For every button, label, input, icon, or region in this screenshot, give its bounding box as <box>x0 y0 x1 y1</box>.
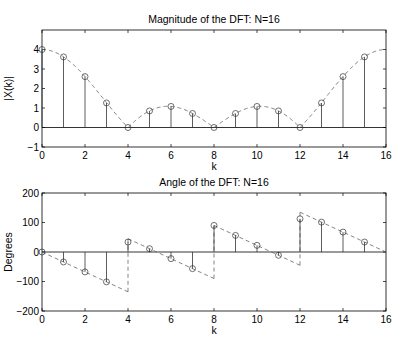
x-tick-label: 12 <box>294 150 306 161</box>
chart-title: Angle of the DFT: N=16 <box>159 176 269 188</box>
y-tick-label: 3 <box>33 64 39 75</box>
y-tick-label: 100 <box>22 217 39 228</box>
y-tick-label: −200 <box>16 306 39 317</box>
x-tick-label: 10 <box>251 314 263 325</box>
dtft-magnitude-curve <box>42 50 386 128</box>
y-axis-label: Degrees <box>2 232 14 272</box>
x-tick-label: 6 <box>168 150 174 161</box>
x-tick-label: 12 <box>294 314 306 325</box>
subplot-angle: 0246810121416−200−1000100200Angle of the… <box>2 176 392 336</box>
dtft-phase-segment <box>214 225 300 265</box>
x-tick-label: 0 <box>39 314 45 325</box>
x-tick-label: 2 <box>82 150 88 161</box>
x-tick-label: 10 <box>251 150 263 161</box>
x-tick-label: 4 <box>125 150 131 161</box>
x-tick-label: 4 <box>125 314 131 325</box>
x-axis-label: k <box>211 324 217 336</box>
x-tick-label: 14 <box>337 150 349 161</box>
subplot-magnitude: 0246810121416−101234Magnitude of the DFT… <box>2 13 392 172</box>
axes-frame <box>42 30 386 147</box>
y-tick-label: 200 <box>22 188 39 199</box>
y-tick-label: 2 <box>33 83 39 94</box>
x-tick-label: 16 <box>380 150 392 161</box>
y-tick-label: 0 <box>33 122 39 133</box>
y-tick-label: 1 <box>33 103 39 114</box>
x-tick-label: 2 <box>82 314 88 325</box>
y-axis-label: |X(k)| <box>2 76 14 101</box>
x-tick-label: 0 <box>39 150 45 161</box>
x-tick-label: 16 <box>380 314 392 325</box>
y-tick-label: 0 <box>33 247 39 258</box>
x-tick-label: 6 <box>168 314 174 325</box>
x-tick-label: 14 <box>337 314 349 325</box>
x-axis-label: k <box>211 160 217 172</box>
y-tick-label: −1 <box>28 142 40 153</box>
dft-figure: 0246810121416−101234Magnitude of the DFT… <box>0 0 398 344</box>
chart-title: Magnitude of the DFT: N=16 <box>148 13 280 25</box>
y-tick-label: −100 <box>16 276 39 287</box>
y-tick-label: 4 <box>33 44 39 55</box>
